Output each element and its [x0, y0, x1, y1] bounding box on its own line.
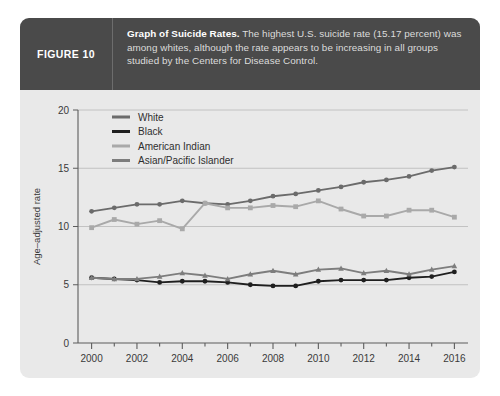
axis-tick-marks	[73, 110, 454, 349]
x-tick-label: 2008	[262, 353, 285, 364]
suicide-rates-line-chart: 05101520 2000200220042006200820102012201…	[20, 90, 480, 378]
data-point-black	[316, 279, 321, 284]
data-point-white	[157, 202, 162, 207]
y-tick-label: 10	[58, 221, 70, 232]
y-tick-label: 20	[58, 105, 70, 116]
y-axis-tick-labels: 05101520	[58, 105, 70, 349]
data-point-black	[429, 274, 434, 279]
data-point-white	[316, 188, 321, 193]
data-point-american-indian	[203, 201, 208, 206]
figure-number-cell: FIGURE 10	[20, 18, 113, 90]
data-point-american-indian	[135, 222, 140, 227]
data-point-american-indian	[361, 214, 366, 219]
x-tick-label: 2006	[217, 353, 240, 364]
legend-label-asian-pacific-islander: Asian/Pacific Islander	[138, 155, 234, 166]
legend-label-white: White	[138, 112, 164, 123]
legend-label-american-indian: American Indian	[138, 141, 210, 152]
x-tick-label: 2010	[307, 353, 330, 364]
figure-caption-text: Graph of Suicide Rates. The highest U.S.…	[127, 27, 466, 68]
chart-plot-area: 05101520 2000200220042006200820102012201…	[20, 90, 480, 378]
figure-caption-bar: FIGURE 10 Graph of Suicide Rates. The hi…	[20, 18, 480, 90]
data-point-black	[157, 280, 162, 285]
data-point-american-indian	[407, 208, 412, 213]
figure-caption-cell: Graph of Suicide Rates. The highest U.S.…	[113, 18, 480, 90]
data-point-american-indian	[384, 214, 389, 219]
data-point-american-indian	[157, 218, 162, 223]
x-axis-tick-labels: 200020022004200620082010201220142016	[80, 353, 465, 364]
data-point-white	[248, 198, 253, 203]
y-tick-label: 0	[63, 338, 69, 349]
data-point-american-indian	[271, 203, 276, 208]
data-point-white	[339, 184, 344, 189]
x-tick-label: 2012	[353, 353, 376, 364]
chart-legend: WhiteBlackAmerican IndianAsian/Pacific I…	[112, 112, 234, 167]
x-tick-label: 2016	[443, 353, 466, 364]
data-point-american-indian	[316, 198, 321, 203]
data-point-white	[429, 168, 434, 173]
data-point-white	[384, 178, 389, 183]
y-axis-title: Age–adjusted rate	[31, 188, 42, 265]
data-point-white	[89, 209, 94, 214]
data-point-black	[203, 279, 208, 284]
y-tick-label: 5	[63, 279, 69, 290]
data-point-american-indian	[452, 215, 457, 220]
x-tick-label: 2000	[80, 353, 103, 364]
data-point-white	[112, 205, 117, 210]
figure-container: FIGURE 10 Graph of Suicide Rates. The hi…	[0, 0, 500, 396]
data-point-black	[293, 284, 298, 289]
data-point-white	[293, 191, 298, 196]
data-point-american-indian	[293, 204, 298, 209]
data-point-white	[271, 194, 276, 199]
data-point-black	[248, 282, 253, 287]
data-point-american-indian	[180, 226, 185, 231]
data-point-black	[180, 279, 185, 284]
legend-label-black: Black	[138, 126, 163, 137]
data-point-white	[452, 165, 457, 170]
data-point-american-indian	[112, 217, 117, 222]
data-point-american-indian	[225, 205, 230, 210]
figure-caption-title: Graph of Suicide Rates.	[127, 28, 240, 39]
y-tick-label: 15	[58, 163, 70, 174]
data-point-white	[180, 198, 185, 203]
data-point-white	[135, 202, 140, 207]
data-point-american-indian	[248, 205, 253, 210]
data-point-black	[384, 278, 389, 283]
data-point-american-indian	[89, 225, 94, 230]
x-tick-label: 2002	[126, 353, 149, 364]
figure-number-label: FIGURE 10	[37, 48, 95, 60]
data-point-american-indian	[429, 208, 434, 213]
data-point-white	[361, 180, 366, 185]
data-point-american-indian	[339, 207, 344, 212]
x-tick-label: 2014	[398, 353, 421, 364]
data-point-black	[271, 284, 276, 289]
data-point-black	[339, 278, 344, 283]
data-point-black	[452, 270, 457, 275]
x-tick-label: 2004	[171, 353, 194, 364]
data-point-black	[361, 278, 366, 283]
y-axis-title-text: Age–adjusted rate	[31, 188, 42, 265]
data-point-white	[407, 174, 412, 179]
